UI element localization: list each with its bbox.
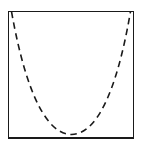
diagram-canvas [0, 0, 145, 152]
figure-background [0, 0, 145, 152]
figure-container [0, 0, 145, 152]
